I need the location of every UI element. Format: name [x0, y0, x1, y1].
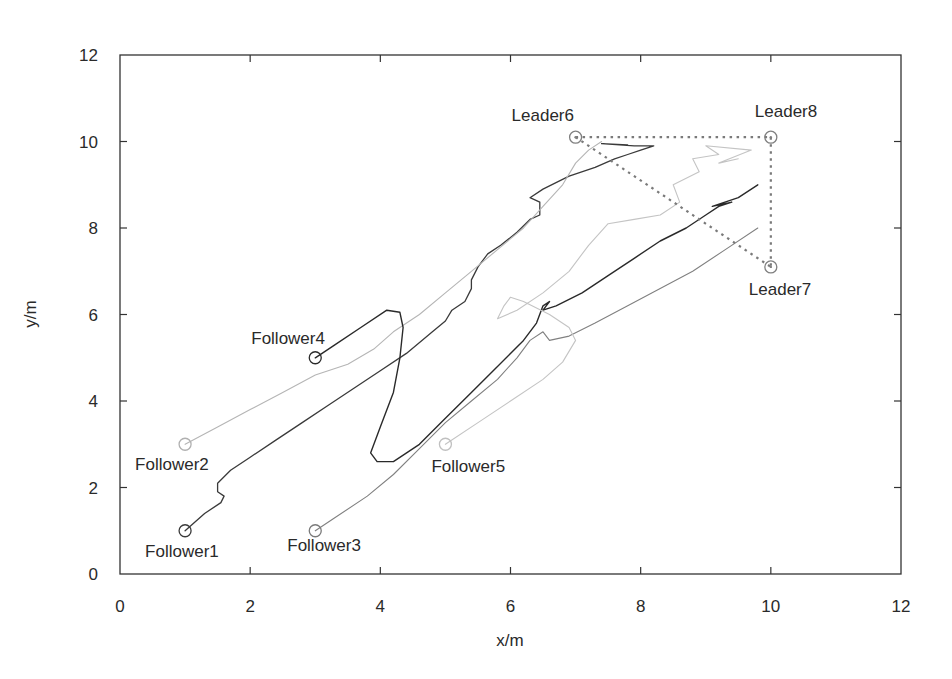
y-tick-label: 8 — [89, 219, 98, 238]
trajectory-chart: Follower1Follower2Follower3Follower4Foll… — [0, 0, 952, 679]
follower5-marker-icon — [439, 438, 451, 450]
x-tick-label: 6 — [506, 597, 515, 616]
trajectory-follower4 — [315, 185, 758, 462]
follower4-label: Follower4 — [251, 329, 325, 348]
leader8-label: Leader8 — [755, 102, 817, 121]
follower5-label: Follower5 — [431, 457, 505, 476]
trajectory-follower5 — [445, 146, 751, 445]
leader7-label: Leader7 — [749, 280, 811, 299]
x-tick-label: 12 — [892, 597, 911, 616]
follower1-marker-icon — [179, 525, 191, 537]
follower2-marker-icon — [179, 438, 191, 450]
y-tick-label: 6 — [89, 306, 98, 325]
x-axis-label: x/m — [496, 631, 523, 650]
follower2-label: Follower2 — [135, 455, 209, 474]
leader-formation-lines — [576, 137, 771, 267]
x-axis-ticks: 024681012 — [115, 55, 910, 616]
x-tick-label: 10 — [761, 597, 780, 616]
y-tick-label: 2 — [89, 479, 98, 498]
y-axis-label: y/m — [21, 300, 40, 327]
trajectory-follower2 — [185, 142, 601, 445]
x-tick-label: 2 — [245, 597, 254, 616]
y-tick-label: 4 — [89, 392, 98, 411]
leader6-label: Leader6 — [512, 106, 574, 125]
y-axis-ticks: 024681012 — [79, 46, 901, 584]
x-tick-label: 8 — [636, 597, 645, 616]
follower4-marker-icon — [309, 352, 321, 364]
follower3-label: Follower3 — [287, 536, 361, 555]
y-tick-label: 0 — [89, 565, 98, 584]
follower1-label: Follower1 — [145, 542, 219, 561]
agent-labels: Follower1Follower2Follower3Follower4Foll… — [135, 102, 817, 561]
trajectory-follower3 — [315, 228, 758, 531]
x-tick-label: 4 — [376, 597, 385, 616]
plot-frame — [120, 55, 901, 574]
leader7-center-dot — [770, 266, 772, 268]
y-tick-label: 10 — [79, 133, 98, 152]
x-tick-label: 0 — [115, 597, 124, 616]
leader8-center-dot — [770, 136, 772, 138]
y-tick-label: 12 — [79, 46, 98, 65]
leader6-center-dot — [574, 136, 576, 138]
formation-edge-leader6-leader7 — [576, 137, 771, 267]
